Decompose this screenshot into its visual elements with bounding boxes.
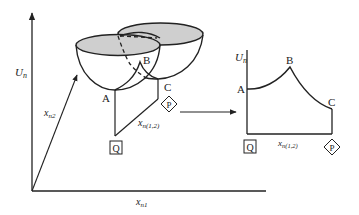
path-label-xn12: xn(1,2) xyxy=(137,117,160,130)
diagram-canvas: A B C xn(1,2) Q P Un xn2 xn1 Un A B xyxy=(0,0,359,215)
left-marker-q: Q xyxy=(110,141,122,154)
right-un-label: Un xyxy=(235,51,247,65)
depth-axis-xn2 xyxy=(32,75,77,191)
un-profile-curve xyxy=(247,67,332,109)
right-point-b-label: B xyxy=(286,54,293,66)
un-axis-label: Un xyxy=(15,66,27,80)
svg-text:Q: Q xyxy=(112,143,120,154)
right-point-c-label: C xyxy=(328,96,335,108)
right-marker-p: P xyxy=(324,139,340,155)
right-x-label: xn(1,2) xyxy=(277,138,298,150)
right-marker-q: Q xyxy=(244,140,256,153)
left-point-b-label: B xyxy=(143,54,150,66)
left-point-a-label: A xyxy=(102,92,110,104)
svg-text:P: P xyxy=(329,143,334,153)
xn1-axis-label: xn1 xyxy=(135,196,147,209)
xn2-axis-label: xn2 xyxy=(43,107,56,120)
left-marker-p: P xyxy=(161,96,177,112)
svg-text:P: P xyxy=(166,100,171,110)
svg-text:Q: Q xyxy=(246,142,254,153)
right-point-a-label: A xyxy=(237,83,245,95)
left-point-c-label: C xyxy=(164,81,171,93)
